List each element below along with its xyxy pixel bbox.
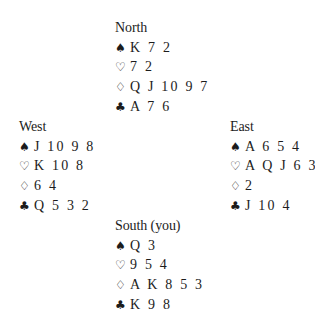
east-clubs: J 10 4 bbox=[245, 198, 292, 213]
spade-icon: ♠ bbox=[115, 42, 127, 54]
west-hearts-row: ♡K 10 8 bbox=[19, 156, 96, 176]
west-spades: J 10 9 8 bbox=[34, 139, 96, 154]
club-icon: ♣ bbox=[230, 200, 242, 212]
south-title: South (you) bbox=[115, 216, 204, 236]
north-hand: North ♠K 7 2 ♡7 2 ♢Q J 10 9 7 ♣A 7 6 bbox=[115, 18, 210, 117]
south-spades-row: ♠Q 3 bbox=[115, 236, 204, 256]
heart-icon: ♡ bbox=[115, 61, 127, 73]
south-hand: South (you) ♠Q 3 ♡9 5 4 ♢A K 8 5 3 ♣K 9 … bbox=[115, 216, 204, 315]
west-title: West bbox=[19, 117, 96, 137]
north-hearts-row: ♡7 2 bbox=[115, 57, 210, 77]
west-hand: West ♠J 10 9 8 ♡K 10 8 ♢6 4 ♣Q 5 3 2 bbox=[19, 117, 96, 216]
north-spades: K 7 2 bbox=[130, 40, 172, 55]
north-title: North bbox=[115, 18, 210, 38]
north-clubs-row: ♣A 7 6 bbox=[115, 97, 210, 117]
south-diamonds-row: ♢A K 8 5 3 bbox=[115, 275, 204, 295]
north-spades-row: ♠K 7 2 bbox=[115, 38, 210, 58]
club-icon: ♣ bbox=[115, 101, 127, 113]
east-diamonds: 2 bbox=[245, 178, 254, 193]
spade-icon: ♠ bbox=[230, 141, 242, 153]
north-diamonds: Q J 10 9 7 bbox=[130, 79, 210, 94]
spade-icon: ♠ bbox=[19, 141, 31, 153]
west-clubs: Q 5 3 2 bbox=[34, 198, 91, 213]
east-clubs-row: ♣J 10 4 bbox=[230, 196, 315, 216]
heart-icon: ♡ bbox=[19, 160, 31, 172]
club-icon: ♣ bbox=[115, 299, 127, 311]
west-spades-row: ♠J 10 9 8 bbox=[19, 137, 96, 157]
south-hearts: 9 5 4 bbox=[130, 257, 169, 272]
west-diamonds-row: ♢6 4 bbox=[19, 176, 96, 196]
west-diamonds: 6 4 bbox=[34, 178, 58, 193]
south-diamonds: A K 8 5 3 bbox=[130, 277, 204, 292]
east-hearts: A Q J 6 3 bbox=[245, 158, 315, 173]
south-clubs: K 9 8 bbox=[130, 297, 172, 312]
south-spades: Q 3 bbox=[130, 238, 157, 253]
west-hearts: K 10 8 bbox=[34, 158, 85, 173]
north-hearts: 7 2 bbox=[130, 59, 154, 74]
north-clubs: A 7 6 bbox=[130, 99, 171, 114]
north-diamonds-row: ♢Q J 10 9 7 bbox=[115, 77, 210, 97]
east-spades-row: ♠A 6 5 4 bbox=[230, 137, 315, 157]
south-clubs-row: ♣K 9 8 bbox=[115, 295, 204, 315]
spade-icon: ♠ bbox=[115, 240, 127, 252]
east-hand: East ♠A 6 5 4 ♡A Q J 6 3 ♢2 ♣J 10 4 bbox=[230, 117, 315, 216]
east-diamonds-row: ♢2 bbox=[230, 176, 315, 196]
east-title: East bbox=[230, 117, 315, 137]
heart-icon: ♡ bbox=[115, 259, 127, 271]
diamond-icon: ♢ bbox=[115, 279, 127, 291]
diamond-icon: ♢ bbox=[230, 180, 242, 192]
club-icon: ♣ bbox=[19, 200, 31, 212]
diamond-icon: ♢ bbox=[115, 81, 127, 93]
west-clubs-row: ♣Q 5 3 2 bbox=[19, 196, 96, 216]
east-spades: A 6 5 4 bbox=[245, 139, 301, 154]
east-hearts-row: ♡A Q J 6 3 bbox=[230, 156, 315, 176]
heart-icon: ♡ bbox=[230, 160, 242, 172]
diamond-icon: ♢ bbox=[19, 180, 31, 192]
south-hearts-row: ♡9 5 4 bbox=[115, 255, 204, 275]
